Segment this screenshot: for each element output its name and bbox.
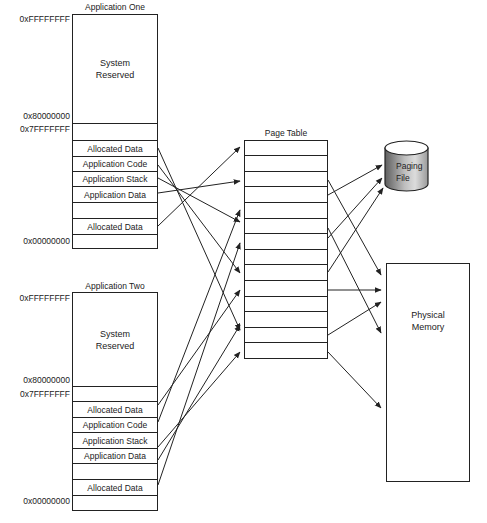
paging-file-label-line1: Paging: [396, 161, 422, 171]
paging-file-label-line2: File: [396, 173, 410, 183]
paging-file-label: Paging File: [396, 160, 422, 184]
mapping-arrows: [0, 0, 487, 523]
